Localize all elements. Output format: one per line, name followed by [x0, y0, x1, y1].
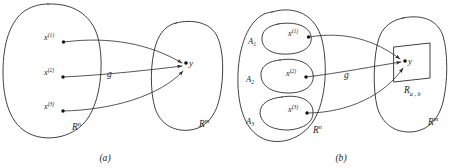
panel-b: x(1) x(2) x(3) A1 A2 A3 y g: [238, 10, 447, 164]
panel-a-codomain-blob: [151, 21, 222, 130]
panel-b-label-g: g: [344, 69, 349, 80]
panel-a-label-x1: x(1): [43, 32, 54, 42]
panel-b-subset-blob-a1: [262, 23, 311, 54]
panel-a-caption: (a): [99, 152, 110, 164]
panel-b-arrow-2: [306, 62, 401, 77]
panel-b-arrow-1: [309, 35, 400, 59]
panel-b-label-x3: x(3): [287, 104, 298, 114]
panel-b-label-domain: Rn: [312, 123, 322, 135]
panel-a-label-x3: x(3): [43, 101, 54, 111]
panel-a-label-x2: x(2): [43, 67, 54, 77]
panel-a-label-domain: Rn: [71, 120, 81, 132]
panel-a-point-x3: [61, 109, 64, 112]
panel-b-label-a3: A3: [245, 116, 254, 127]
panel-b-label-x2: x(2): [285, 68, 296, 78]
panel-a-point-x2: [61, 75, 64, 78]
panel-a-label-g: g: [107, 68, 112, 79]
panel-b-label-y: y: [407, 56, 413, 66]
panel-b-label-x1: x(1): [287, 28, 298, 38]
panel-a-arrow-2: [63, 66, 182, 77]
panel-a-label-codomain: Rm: [198, 117, 210, 129]
panel-b-point-y: [403, 59, 407, 63]
panel-b-point-x2: [304, 75, 307, 78]
panel-b-point-x1: [307, 35, 310, 38]
panel-b-label-codomain: Rm: [427, 115, 439, 127]
panel-b-caption: (b): [335, 152, 346, 164]
panel-a-label-y: y: [188, 58, 194, 68]
panel-b-point-x3: [305, 111, 308, 114]
panel-a-point-y: [184, 61, 188, 65]
panel-a-point-x1: [62, 40, 65, 43]
panel-a: x(1) x(2) x(3) y g Rn Rm (a): [3, 4, 223, 164]
panel-b-subset-blob-a3: [260, 96, 313, 130]
panel-a-arrow-3: [63, 71, 183, 111]
figure-root: x(1) x(2) x(3) y g Rn Rm (a): [0, 0, 462, 168]
panel-b-label-a2: A2: [245, 74, 254, 85]
panel-b-label-a1: A1: [247, 36, 256, 47]
panel-b-label-image-region: Ra , b: [403, 85, 421, 97]
panel-a-arrow-1: [64, 40, 182, 63]
figure-canvas: x(1) x(2) x(3) y g Rn Rm (a): [0, 0, 462, 168]
